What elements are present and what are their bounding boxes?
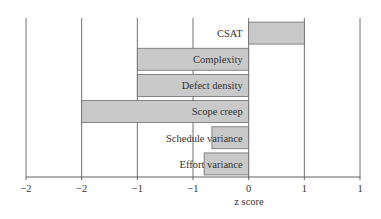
z-score-bar-chart: CSATComplexityDefect densityScope creepS… bbox=[0, 0, 381, 219]
bar-label: Scope creep bbox=[192, 106, 243, 117]
x-tick-label: −2 bbox=[20, 183, 31, 194]
bar-label: Schedule variance bbox=[166, 133, 243, 144]
bar-group: Complexity bbox=[137, 48, 248, 70]
x-tick-label: −2 bbox=[76, 183, 87, 194]
bar-label: Complexity bbox=[193, 54, 243, 65]
bar-group: CSAT bbox=[217, 22, 304, 44]
bar bbox=[249, 22, 305, 44]
x-tick-label: −1 bbox=[187, 183, 198, 194]
bar-group: Schedule variance bbox=[166, 127, 249, 149]
bar-group: Defect density bbox=[137, 74, 248, 96]
x-tick-label: 1 bbox=[357, 183, 362, 194]
bar-group: Scope creep bbox=[82, 101, 249, 123]
x-tick-label: 0 bbox=[246, 183, 251, 194]
x-axis-label: z score bbox=[234, 196, 264, 207]
bar-label: Effort variance bbox=[180, 159, 243, 170]
bar-label: CSAT bbox=[217, 28, 243, 39]
gridlines bbox=[26, 18, 360, 177]
x-axis: −2−2−1−1011 bbox=[20, 177, 362, 194]
bar-group: Effort variance bbox=[180, 153, 249, 175]
x-tick-label: −1 bbox=[132, 183, 143, 194]
x-tick-label: 1 bbox=[302, 183, 307, 194]
bar-label: Defect density bbox=[182, 80, 244, 91]
